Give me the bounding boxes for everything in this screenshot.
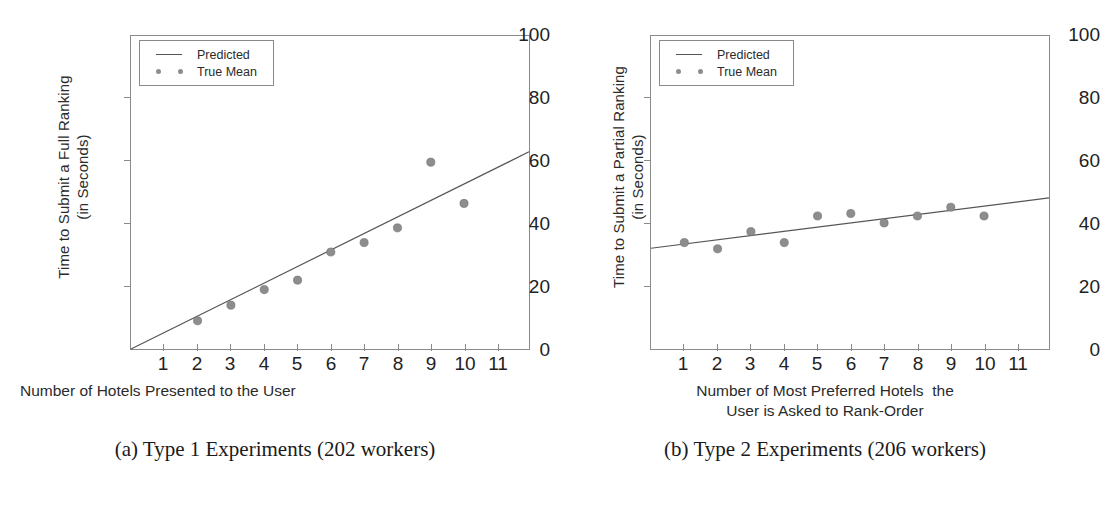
x-tick-mark — [884, 344, 885, 351]
x-tick-label-11: 11 — [1008, 353, 1028, 375]
x-tick-label-9: 9 — [946, 353, 957, 375]
x-tick-label-1: 1 — [158, 353, 169, 375]
x-tick-label-5: 5 — [812, 353, 823, 375]
data-point — [780, 239, 788, 247]
y-tick-label-80: 80 — [432, 87, 550, 109]
y-axis-title-a-line1: Time to Submit a Full Ranking — [54, 17, 73, 337]
y-tick-mark — [124, 160, 131, 161]
data-point — [813, 212, 821, 220]
y-tick-label-80: 80 — [1012, 87, 1100, 109]
data-point — [913, 212, 921, 220]
x-tick-label-11: 11 — [488, 353, 508, 375]
figure-two-panel-scatter: Time to Submit a Full Ranking (in Second… — [0, 0, 1100, 513]
x-tick-label-3: 3 — [225, 353, 236, 375]
x-tick-label-10: 10 — [454, 353, 475, 375]
caption-b: (b) Type 2 Experiments (206 workers) — [550, 437, 1100, 462]
x-tick-mark — [398, 344, 399, 351]
legend-row-predicted-a: Predicted — [147, 46, 264, 63]
x-tick-label-9: 9 — [426, 353, 437, 375]
x-tick-mark — [851, 344, 852, 351]
y-tick-label-100: 100 — [1012, 24, 1100, 46]
legend-row-true-mean-a: True Mean — [147, 63, 264, 80]
data-point — [680, 239, 688, 247]
data-point — [393, 224, 401, 232]
y-axis-title-b-line1: Time to Submit a Partial Ranking — [609, 17, 628, 337]
legend-line-icon — [147, 54, 191, 55]
data-point — [227, 301, 235, 309]
x-tick-label-3: 3 — [745, 353, 756, 375]
x-tick-mark — [331, 344, 332, 351]
y-axis-title-b: Time to Submit a Partial Ranking (in Sec… — [609, 17, 647, 337]
panel-a: Time to Submit a Full Ranking (in Second… — [0, 0, 550, 513]
x-tick-mark — [951, 344, 952, 351]
x-tick-mark — [364, 344, 365, 351]
x-tick-label-8: 8 — [393, 353, 404, 375]
data-point — [460, 199, 468, 207]
y-tick-label-20: 20 — [1012, 276, 1100, 298]
x-tick-mark — [431, 344, 432, 351]
plot-area-b: Predicted True Mean — [650, 35, 1050, 350]
data-point — [327, 248, 335, 256]
caption-a: (a) Type 1 Experiments (202 workers) — [0, 437, 550, 462]
data-point — [713, 245, 721, 253]
data-point — [360, 239, 368, 247]
data-point — [193, 317, 201, 325]
legend-a: Predicted True Mean — [139, 40, 274, 86]
y-tick-label-40: 40 — [432, 213, 550, 235]
x-axis-title-b-line2: User is Asked to Rank-Order — [550, 401, 1100, 421]
x-tick-label-4: 4 — [779, 353, 790, 375]
x-axis-title-b-line1: Number of Most Preferred Hotels the — [550, 381, 1100, 401]
x-tick-label-8: 8 — [913, 353, 924, 375]
data-point — [847, 209, 855, 217]
x-tick-label-6: 6 — [846, 353, 857, 375]
true-mean-points-a — [193, 158, 468, 325]
plot-area-a: Predicted True Mean — [130, 35, 530, 350]
x-tick-mark — [163, 344, 164, 351]
data-point — [980, 212, 988, 220]
data-point — [747, 228, 755, 236]
legend-label-predicted: Predicted — [717, 48, 770, 62]
x-tick-mark — [264, 344, 265, 351]
legend-label-true-mean: True Mean — [717, 65, 777, 79]
legend-row-true-mean-b: True Mean — [667, 63, 784, 80]
x-tick-label-7: 7 — [879, 353, 890, 375]
true-mean-points-b — [680, 203, 988, 253]
x-tick-label-7: 7 — [359, 353, 370, 375]
y-tick-mark — [644, 286, 651, 287]
data-point — [880, 219, 888, 227]
legend-dot-icon — [147, 69, 191, 74]
x-tick-mark — [985, 344, 986, 351]
panel-b: Time to Submit a Partial Ranking (in Sec… — [550, 0, 1100, 513]
y-tick-mark — [644, 97, 651, 98]
predicted-line-b — [651, 198, 1049, 248]
x-tick-label-4: 4 — [259, 353, 270, 375]
x-tick-mark — [717, 344, 718, 351]
x-tick-mark — [465, 344, 466, 351]
y-tick-mark — [644, 160, 651, 161]
data-point — [260, 286, 268, 294]
y-tick-mark — [124, 223, 131, 224]
x-tick-mark — [498, 344, 499, 351]
y-tick-label-20: 20 — [432, 276, 550, 298]
legend-line-icon — [667, 54, 711, 55]
x-tick-label-2: 2 — [192, 353, 203, 375]
legend-label-true-mean: True Mean — [197, 65, 257, 79]
legend-row-predicted-b: Predicted — [667, 46, 784, 63]
x-axis-title-a: Number of Hotels Presented to the User — [20, 381, 640, 401]
caption-b-text: (b) Type 2 Experiments (206 workers) — [664, 437, 986, 461]
legend-label-predicted: Predicted — [197, 48, 250, 62]
y-tick-label-60: 60 — [1012, 150, 1100, 172]
x-tick-label-10: 10 — [974, 353, 995, 375]
caption-a-text: (a) Type 1 Experiments (202 workers) — [115, 437, 436, 461]
x-tick-mark — [297, 344, 298, 351]
x-axis-title-b: Number of Most Preferred Hotels the User… — [550, 381, 1100, 421]
y-axis-title-a: Time to Submit a Full Ranking (in Second… — [54, 17, 92, 337]
y-tick-label-60: 60 — [432, 150, 550, 172]
legend-dot-icon — [667, 69, 711, 74]
y-tick-mark — [124, 97, 131, 98]
x-tick-mark — [683, 344, 684, 351]
data-point — [947, 203, 955, 211]
y-tick-mark — [644, 223, 651, 224]
x-tick-label-6: 6 — [326, 353, 337, 375]
x-tick-label-1: 1 — [678, 353, 689, 375]
